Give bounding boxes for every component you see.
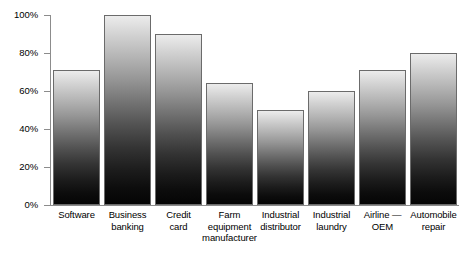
x-axis-label-line: Software bbox=[48, 209, 105, 221]
x-axis-label: Automobilerepair bbox=[405, 209, 462, 232]
bar-slot bbox=[257, 15, 304, 205]
x-axis-label: Businessbanking bbox=[99, 209, 156, 232]
x-axis-label-line: OEM bbox=[354, 221, 411, 233]
x-axis-line bbox=[50, 205, 459, 206]
x-axis-label-line: Credit bbox=[150, 209, 207, 221]
y-axis-tick bbox=[44, 91, 51, 92]
x-axis-label-line: banking bbox=[99, 221, 156, 233]
x-axis-label-line: Farm bbox=[201, 209, 258, 221]
x-axis-label-line: laundry bbox=[303, 221, 360, 233]
y-axis-tick bbox=[44, 167, 51, 168]
x-axis-label: Creditcard bbox=[150, 209, 207, 232]
plot-area bbox=[51, 15, 459, 205]
bar[interactable] bbox=[206, 83, 253, 205]
bar-slot bbox=[410, 15, 457, 205]
bar[interactable] bbox=[359, 70, 406, 205]
bar-slot bbox=[155, 15, 202, 205]
y-axis-tick bbox=[44, 15, 51, 16]
bar-slot bbox=[359, 15, 406, 205]
x-axis-label-line: Industrial bbox=[252, 209, 309, 221]
x-axis-label: Software bbox=[48, 209, 105, 221]
y-axis-tick-label: 80% bbox=[0, 48, 38, 58]
x-axis-label-line: equipment bbox=[201, 221, 258, 233]
y-axis-tick bbox=[44, 205, 51, 206]
y-axis-tick-label: 20% bbox=[0, 162, 38, 172]
bar[interactable] bbox=[257, 110, 304, 205]
x-axis-label-line: distributor bbox=[252, 221, 309, 233]
x-axis-labels: SoftwareBusinessbankingCreditcardFarmequ… bbox=[51, 209, 459, 255]
y-axis-tick-label: 0% bbox=[0, 200, 38, 210]
bar[interactable] bbox=[104, 15, 151, 205]
x-axis-label-line: manufacturer bbox=[201, 232, 258, 244]
x-axis-label-line: Airline — bbox=[354, 209, 411, 221]
y-axis-tick-label: 60% bbox=[0, 86, 38, 96]
bar-slot bbox=[308, 15, 355, 205]
bar-chart: SoftwareBusinessbankingCreditcardFarmequ… bbox=[0, 0, 475, 255]
bar-slot bbox=[206, 15, 253, 205]
x-axis-label: Airline —OEM bbox=[354, 209, 411, 232]
x-axis-label-line: Industrial bbox=[303, 209, 360, 221]
y-axis-tick-label: 100% bbox=[0, 10, 38, 20]
y-axis-tick-label: 40% bbox=[0, 124, 38, 134]
x-axis-label: Industriallaundry bbox=[303, 209, 360, 232]
bar[interactable] bbox=[308, 91, 355, 205]
x-axis-label-line: Automobile bbox=[405, 209, 462, 221]
x-axis-label-line: repair bbox=[405, 221, 462, 233]
bar[interactable] bbox=[410, 53, 457, 205]
x-axis-label: Industrialdistributor bbox=[252, 209, 309, 232]
x-axis-label-line: Business bbox=[99, 209, 156, 221]
y-axis-tick bbox=[44, 53, 51, 54]
bar-slot bbox=[53, 15, 100, 205]
bar[interactable] bbox=[53, 70, 100, 205]
x-axis-label: Farmequipmentmanufacturer bbox=[201, 209, 258, 244]
bar-slot bbox=[104, 15, 151, 205]
x-axis-label-line: card bbox=[150, 221, 207, 233]
y-axis-tick bbox=[44, 129, 51, 130]
bar[interactable] bbox=[155, 34, 202, 205]
